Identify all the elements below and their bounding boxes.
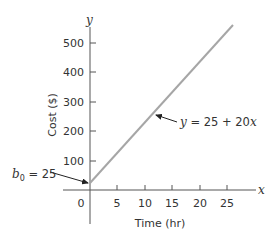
y-axis-symbol: y [85,13,93,27]
y-tick-label: 100 [63,155,84,168]
x-tick-label: 15 [165,197,179,210]
equation-arrow [156,115,177,122]
x-ticks [117,185,227,190]
x-axis-symbol: x [258,183,265,197]
x-tick-label: 20 [193,197,207,210]
chart: 500 400 300 200 100 0 5 10 15 20 25 y x … [0,0,272,231]
y-tick-label: 500 [63,37,84,50]
y-tick-label: 400 [63,66,84,79]
y-tick-label: 300 [63,96,84,109]
x-tick-label: 25 [220,197,234,210]
x-tick-label: 0 [78,197,85,210]
x-axis-title: Time (hr) [134,217,186,230]
intercept-label: b0 = 25 [12,167,56,183]
y-ticks [90,43,96,161]
y-tick-label: 200 [63,125,84,138]
x-tick-label: 5 [114,197,121,210]
equation-label: y = 25 + 20x [179,115,257,129]
y-axis-title: Cost ($) [46,93,59,137]
x-tick-label: 10 [138,197,152,210]
regression-line [90,25,233,183]
